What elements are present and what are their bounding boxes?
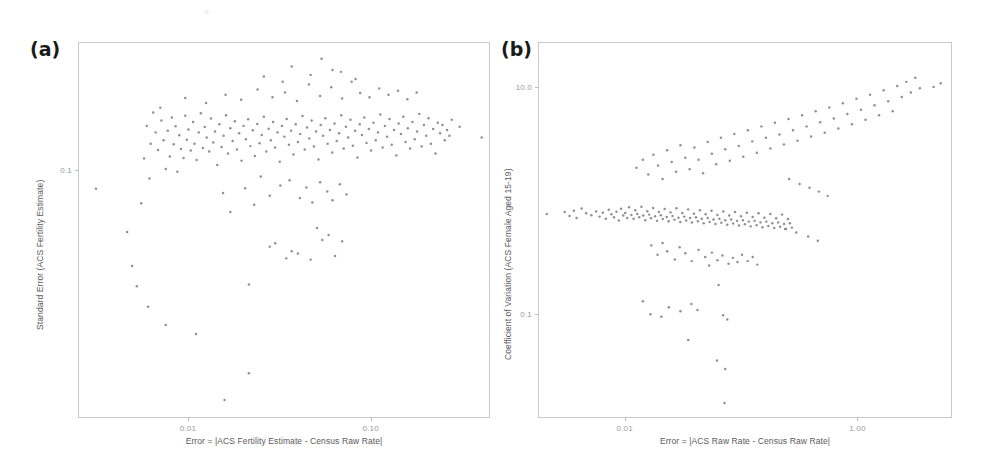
scatter-point xyxy=(397,122,399,124)
scatter-point xyxy=(288,179,290,181)
scatter-point xyxy=(724,219,726,221)
scatter-point xyxy=(193,143,195,145)
scatter-point xyxy=(186,138,188,140)
scatter-point xyxy=(753,220,755,222)
scatter-point xyxy=(765,220,767,222)
scatter-point xyxy=(437,122,439,124)
y-tick-mark xyxy=(75,170,78,171)
scatter-point xyxy=(681,212,683,214)
scatter-point xyxy=(402,116,404,118)
scatter-point xyxy=(359,92,361,94)
scatter-point xyxy=(165,324,167,326)
scatter-point xyxy=(701,217,703,219)
scatter-point xyxy=(644,219,646,221)
scatter-point xyxy=(297,141,299,143)
scatter-point xyxy=(563,211,565,213)
scatter-point xyxy=(397,89,399,91)
scatter-point xyxy=(665,216,667,218)
scatter-point xyxy=(704,256,706,258)
scatter-point xyxy=(404,141,406,143)
scatter-point xyxy=(734,211,736,213)
panel-a: (a) 0.010.10 0.1 Error = |ACS Fertility … xyxy=(0,0,496,465)
x-tick-mark xyxy=(371,418,372,421)
scatter-point xyxy=(352,144,354,146)
scatter-point xyxy=(882,89,884,91)
scatter-point xyxy=(573,210,575,212)
scatter-point xyxy=(276,131,278,133)
scatter-point xyxy=(439,132,441,134)
scatter-point xyxy=(326,143,328,145)
scatter-point xyxy=(192,121,194,123)
scatter-point xyxy=(236,148,238,150)
scatter-point xyxy=(225,114,227,116)
scatter-point xyxy=(176,171,178,173)
scatter-point xyxy=(910,91,912,93)
scatter-point xyxy=(706,141,708,143)
scatter-point xyxy=(657,164,659,166)
scatter-point xyxy=(451,118,453,120)
scatter-point xyxy=(738,224,740,226)
scatter-point xyxy=(673,219,675,221)
scatter-point xyxy=(147,305,149,307)
scatter-point xyxy=(932,86,934,88)
scatter-point xyxy=(759,221,761,223)
scatter-point xyxy=(690,303,692,305)
scatter-point xyxy=(272,121,274,123)
scatter-point xyxy=(234,120,236,122)
scatter-point xyxy=(379,113,381,115)
scatter-point xyxy=(154,131,156,133)
scatter-point xyxy=(299,197,301,199)
scatter-point xyxy=(714,223,716,225)
scatter-point xyxy=(279,160,281,162)
scatter-point xyxy=(202,147,204,149)
scatter-point xyxy=(687,339,689,341)
scatter-point xyxy=(751,216,753,218)
scatter-point xyxy=(778,133,780,135)
scatter-point xyxy=(679,221,681,223)
scatter-point xyxy=(178,134,180,136)
scatter-point xyxy=(238,132,240,134)
scatter-point xyxy=(585,212,587,214)
scatter-point xyxy=(732,257,734,259)
y-tick-label: 0.1 xyxy=(50,166,72,175)
scatter-point xyxy=(823,131,825,133)
scatter-point xyxy=(229,211,231,213)
scatter-point xyxy=(814,110,816,112)
scatter-point xyxy=(313,145,315,147)
scatter-point xyxy=(819,121,821,123)
scatter-point xyxy=(182,157,184,159)
y-tick-label: 10.0 xyxy=(510,83,532,92)
scatter-point xyxy=(222,192,224,194)
scatter-point xyxy=(309,258,311,260)
scatter-point xyxy=(805,125,807,127)
scatter-point xyxy=(378,87,380,89)
scatter-point xyxy=(728,214,730,216)
scatter-point xyxy=(767,225,769,227)
scatter-point xyxy=(940,82,942,84)
scatter-point xyxy=(798,183,800,185)
scatter-point xyxy=(285,118,287,120)
scatter-point xyxy=(297,252,299,254)
scatter-point xyxy=(205,102,207,104)
panel-a-scatter-points xyxy=(79,43,489,417)
scatter-point xyxy=(329,129,331,131)
scatter-point xyxy=(317,158,319,160)
scatter-point xyxy=(441,124,443,126)
scatter-point xyxy=(742,155,744,157)
scatter-point xyxy=(722,314,724,316)
scatter-point xyxy=(666,250,668,252)
scatter-point xyxy=(679,144,681,146)
scatter-point xyxy=(294,123,296,125)
y-tick-label: 0.1 xyxy=(510,309,532,318)
scatter-point xyxy=(568,215,570,217)
scatter-point xyxy=(771,222,773,224)
scatter-point xyxy=(444,139,446,141)
scatter-point xyxy=(430,143,432,145)
scatter-point xyxy=(613,216,615,218)
scatter-point xyxy=(349,118,351,120)
scatter-point xyxy=(319,124,321,126)
scatter-point xyxy=(891,110,893,112)
panel-b-label: (b) xyxy=(501,38,532,60)
panel-b-x-axis-title: Error = |ACS Raw Rate - Census Raw Rate| xyxy=(538,436,952,446)
scatter-point xyxy=(717,284,719,286)
